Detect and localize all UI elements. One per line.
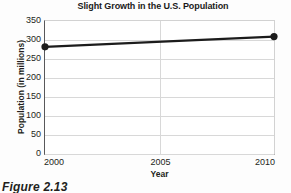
gridline-h <box>45 154 274 155</box>
y-tick-label: 250 <box>1 54 41 63</box>
figure-caption: Figure 2.13 <box>2 180 68 193</box>
y-tick-label: 350 <box>1 16 41 25</box>
x-tick-label: 2010 <box>255 157 275 167</box>
y-tick-label: 200 <box>1 73 41 82</box>
y-tick-label: 100 <box>1 111 41 120</box>
y-tick-label: 300 <box>1 35 41 44</box>
series-line-chart <box>45 21 274 154</box>
series-line <box>45 37 274 47</box>
x-tick-label: 2005 <box>151 157 171 167</box>
x-tick-label: 2000 <box>44 157 64 167</box>
data-point-marker <box>41 43 48 50</box>
y-tick-label: 150 <box>1 92 41 101</box>
y-axis-tick-labels: 050100150200250300350 <box>0 20 41 155</box>
plot-area <box>44 20 275 155</box>
x-axis-title: Year <box>44 169 275 179</box>
y-tick-label: 50 <box>1 130 41 139</box>
chart-title: Slight Growth in the U.S. Population <box>30 1 276 11</box>
x-axis-tick-labels: 200020052010 <box>0 157 291 169</box>
data-point-marker <box>270 33 277 40</box>
figure-container: Slight Growth in the U.S. Population Pop… <box>0 0 291 193</box>
